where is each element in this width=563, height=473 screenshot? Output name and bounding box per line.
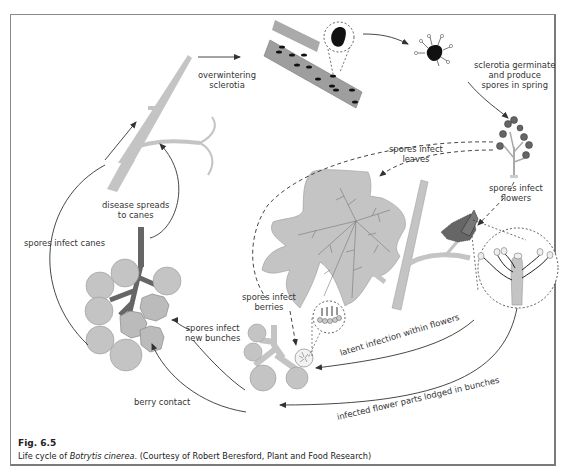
sporulating-shoot-icon <box>497 117 533 179</box>
label-spores-infect-berries: spores infect berries <box>242 292 296 312</box>
caption-prefix: Life cycle of <box>18 451 70 461</box>
label-line: flowers <box>489 193 543 203</box>
flower-detail-icon <box>472 220 558 308</box>
label-spores-infect-new-bunches: spores infect new bunches <box>185 323 240 343</box>
label-line: sclerotia <box>198 80 256 90</box>
label-line: spores in spring <box>474 80 555 90</box>
label-overwintering-sclerotia: overwintering sclerotia <box>198 70 256 90</box>
germinating-sclerotium-icon <box>414 34 452 66</box>
label-line: sclerotia germinate <box>474 60 555 70</box>
figure-caption: Life cycle of Botrytis cinerea. (Courtes… <box>18 451 371 461</box>
shoot-cane-icon <box>392 180 470 310</box>
label-line: disease spreads <box>102 200 169 210</box>
caption-species: Botrytis cinerea <box>70 451 135 461</box>
label-line: new bunches <box>185 333 240 343</box>
label-spores-infect-leaves: spores infect leaves <box>389 144 443 164</box>
label-line: berries <box>242 302 296 312</box>
label-line: and produce <box>474 70 555 80</box>
label-line: spores infect <box>389 144 443 154</box>
label-sclerotia-germinate: sclerotia germinate and produce spores i… <box>474 60 555 90</box>
label-disease-spreads-to-canes: disease spreads to canes <box>102 200 169 220</box>
label-berry-contact: berry contact <box>134 397 190 407</box>
label-line: to canes <box>102 210 169 220</box>
label-line: spores infect <box>242 292 296 302</box>
infected-grape-bunch-icon <box>85 227 181 371</box>
label-line: overwintering <box>198 70 256 80</box>
label-spores-infect-flowers: spores infect flowers <box>489 183 543 203</box>
caption-suffix: . (Courtesy of Robert Beresford, Plant a… <box>134 451 371 461</box>
grape-leaf-icon <box>262 170 405 308</box>
cane-with-sclerotia-icon <box>264 20 362 108</box>
figure-number: Fig. 6.5 <box>18 438 56 448</box>
label-line: spores infect <box>489 183 543 193</box>
label-line: leaves <box>389 154 443 164</box>
label-line: spores infect <box>185 323 240 333</box>
label-spores-infect-canes: spores infect canes <box>24 238 105 248</box>
small-bunch-icon <box>244 301 345 391</box>
